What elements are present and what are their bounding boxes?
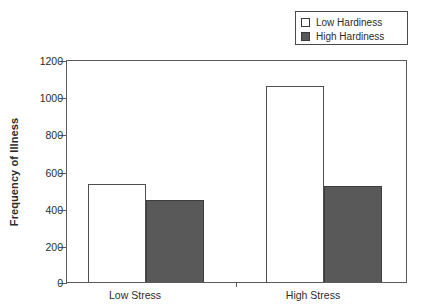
x-category-label-high-stress: High Stress <box>286 289 340 301</box>
y-tick-label: 800 <box>45 129 63 141</box>
y-tick-label: 1200 <box>40 55 63 67</box>
x-category-label-low-stress: Low Stress <box>109 289 161 301</box>
legend-label-low-hardiness: Low Hardiness <box>316 17 382 28</box>
legend-label-high-hardiness: High Hardiness <box>316 31 384 42</box>
y-tick-label: 200 <box>45 241 63 253</box>
legend-item-high-hardiness: High Hardiness <box>301 29 403 43</box>
y-tick-label: 0 <box>57 277 63 289</box>
plot-area: 1200 1000 800 600 400 200 <box>66 60 407 283</box>
bar-chart-figure: Low Hardiness High Hardiness Frequency o… <box>0 0 423 308</box>
legend-item-low-hardiness: Low Hardiness <box>301 15 403 29</box>
bar-high-stress-low-hardiness <box>266 86 324 282</box>
bar-low-stress-high-hardiness <box>146 200 204 282</box>
y-axis-title-text: Frequency of Illness <box>8 117 20 225</box>
x-tick-midpoint <box>236 282 237 287</box>
y-tick-label: 1000 <box>40 92 63 104</box>
filled-square-swatch-icon <box>301 32 310 41</box>
open-square-swatch-icon <box>301 18 310 27</box>
chart-legend: Low Hardiness High Hardiness <box>295 11 408 45</box>
y-tick-label: 600 <box>45 167 63 179</box>
y-tick-label: 400 <box>45 204 63 216</box>
bar-high-stress-high-hardiness <box>324 186 382 282</box>
bar-low-stress-low-hardiness <box>88 184 146 282</box>
y-axis-title: Frequency of Illness <box>6 60 22 283</box>
plot-inner: 1200 1000 800 600 400 200 <box>67 61 406 282</box>
